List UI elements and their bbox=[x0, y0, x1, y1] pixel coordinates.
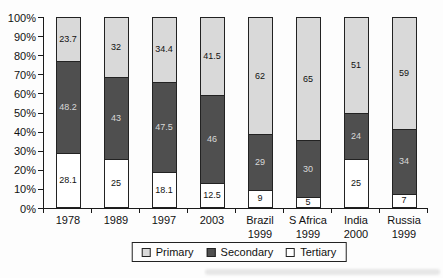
y-axis-tick-label: 10% bbox=[0, 183, 36, 195]
segment-value-label: 7 bbox=[401, 196, 406, 205]
y-axis-tick bbox=[38, 93, 43, 94]
segment-value-label: 62 bbox=[255, 72, 265, 81]
segment-tertiary: 12.5 bbox=[200, 184, 225, 208]
segment-value-label: 32 bbox=[111, 43, 121, 52]
segment-secondary: 29 bbox=[248, 135, 273, 190]
category-label: 1997 bbox=[140, 213, 188, 227]
category-label: 1989 bbox=[92, 213, 140, 227]
category-label-line: 1999 bbox=[380, 227, 428, 241]
y-axis-tick bbox=[38, 189, 43, 190]
segment-value-label: 65 bbox=[303, 75, 313, 84]
segment-value-label: 28.1 bbox=[59, 176, 77, 185]
y-axis-line bbox=[43, 17, 44, 209]
bar-india-2000: 512425 bbox=[344, 17, 369, 208]
y-axis-tick-label: 0% bbox=[0, 203, 36, 215]
segment-primary: 23.7 bbox=[56, 17, 81, 62]
bar-brazil-1999: 62299 bbox=[248, 17, 273, 208]
segment-value-label: 30 bbox=[303, 165, 313, 174]
y-axis-tick-label: 70% bbox=[0, 69, 36, 81]
segment-tertiary: 18.1 bbox=[152, 173, 177, 208]
y-axis-tick-label: 40% bbox=[0, 126, 36, 138]
y-axis-tick-label: 90% bbox=[0, 31, 36, 43]
y-axis-tick bbox=[38, 55, 43, 56]
segment-primary: 34.4 bbox=[152, 17, 177, 83]
segment-value-label: 51 bbox=[351, 61, 361, 70]
segment-value-label: 48.2 bbox=[59, 103, 77, 112]
segment-secondary: 30 bbox=[296, 141, 321, 198]
category-label-line: 2000 bbox=[332, 227, 380, 241]
category-label-line: 1997 bbox=[140, 213, 188, 227]
segment-tertiary: 25 bbox=[104, 160, 129, 208]
category-label-line: India bbox=[332, 213, 380, 227]
category-label-line: 2003 bbox=[188, 213, 236, 227]
bar-s-africa-1999: 65305 bbox=[296, 17, 321, 208]
segment-secondary: 47.5 bbox=[152, 83, 177, 174]
legend-item-primary: Primary bbox=[142, 246, 194, 258]
legend-swatch-secondary bbox=[207, 248, 216, 257]
y-axis-tick bbox=[38, 74, 43, 75]
segment-secondary: 34 bbox=[392, 130, 417, 195]
y-axis-tick-label: 30% bbox=[0, 145, 36, 157]
segment-value-label: 25 bbox=[111, 179, 121, 188]
segment-value-label: 9 bbox=[257, 194, 262, 203]
segment-primary: 32 bbox=[104, 17, 129, 78]
segment-secondary: 43 bbox=[104, 78, 129, 160]
segment-primary: 65 bbox=[296, 17, 321, 141]
segment-value-label: 46 bbox=[207, 135, 217, 144]
segment-value-label: 12.5 bbox=[203, 191, 221, 200]
segment-primary: 62 bbox=[248, 17, 273, 135]
segment-primary: 41.5 bbox=[200, 17, 225, 96]
segment-value-label: 34 bbox=[399, 157, 409, 166]
segment-value-label: 29 bbox=[255, 158, 265, 167]
legend-swatch-tertiary bbox=[286, 248, 295, 257]
y-axis-tick bbox=[38, 113, 43, 114]
category-label-line: 1999 bbox=[284, 227, 332, 241]
category-label: 2003 bbox=[188, 213, 236, 227]
segment-value-label: 25 bbox=[351, 179, 361, 188]
y-axis-tick bbox=[38, 151, 43, 152]
legend-item-tertiary: Tertiary bbox=[286, 246, 336, 258]
bar-2003: 41.54612.5 bbox=[200, 17, 225, 208]
segment-tertiary: 9 bbox=[248, 191, 273, 208]
segment-tertiary: 5 bbox=[296, 198, 321, 208]
legend-swatch-primary bbox=[142, 248, 151, 257]
category-label: India2000 bbox=[332, 213, 380, 241]
legend-label: Secondary bbox=[221, 246, 274, 258]
category-label: 1978 bbox=[44, 213, 92, 227]
scan-artifact bbox=[205, 269, 440, 275]
segment-value-label: 43 bbox=[111, 114, 121, 123]
y-axis-tick-label: 100% bbox=[0, 12, 36, 24]
segment-value-label: 5 bbox=[305, 198, 310, 207]
segment-tertiary: 7 bbox=[392, 195, 417, 208]
y-axis-tick-label: 20% bbox=[0, 164, 36, 176]
legend: PrimarySecondaryTertiary bbox=[132, 242, 347, 262]
y-axis-tick-label: 60% bbox=[0, 88, 36, 100]
category-label-line: 1989 bbox=[92, 213, 140, 227]
segment-value-label: 23.7 bbox=[59, 35, 77, 44]
segment-value-label: 18.1 bbox=[155, 186, 173, 195]
bar-1978: 23.748.228.1 bbox=[56, 17, 81, 208]
bar-russia-1999: 59347 bbox=[392, 17, 417, 208]
segment-value-label: 34.4 bbox=[155, 45, 173, 54]
y-axis-tick bbox=[38, 170, 43, 171]
segment-value-label: 47.5 bbox=[155, 123, 173, 132]
y-axis-tick bbox=[38, 36, 43, 37]
category-label-line: Russia bbox=[380, 213, 428, 227]
bar-1997: 34.447.518.1 bbox=[152, 17, 177, 208]
segment-primary: 51 bbox=[344, 17, 369, 114]
y-axis-tick bbox=[38, 132, 43, 133]
segment-secondary: 24 bbox=[344, 114, 369, 160]
y-axis-tick-label: 50% bbox=[0, 107, 36, 119]
segment-value-label: 41.5 bbox=[203, 52, 221, 61]
category-label-line: S Africa bbox=[284, 213, 332, 227]
legend-label: Primary bbox=[156, 246, 194, 258]
legend-item-secondary: Secondary bbox=[207, 246, 274, 258]
category-label: S Africa1999 bbox=[284, 213, 332, 241]
category-label: Russia1999 bbox=[380, 213, 428, 241]
category-label-line: Brazil bbox=[236, 213, 284, 227]
category-label-line: 1999 bbox=[236, 227, 284, 241]
segment-tertiary: 25 bbox=[344, 160, 369, 208]
stacked-bar-chart: 0%10%20%30%40%50%60%70%80%90%100% 23.748… bbox=[0, 0, 443, 278]
y-axis-tick bbox=[38, 17, 43, 18]
y-axis-tick-label: 80% bbox=[0, 50, 36, 62]
